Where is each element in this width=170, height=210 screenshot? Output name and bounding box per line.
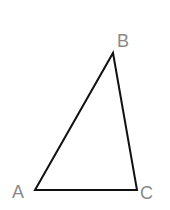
- triangle-abc: [35, 53, 137, 190]
- vertex-label-b: B: [117, 31, 129, 51]
- triangle-diagram: A B C: [0, 0, 170, 210]
- vertex-label-c: C: [140, 183, 153, 203]
- vertex-label-a: A: [12, 182, 24, 202]
